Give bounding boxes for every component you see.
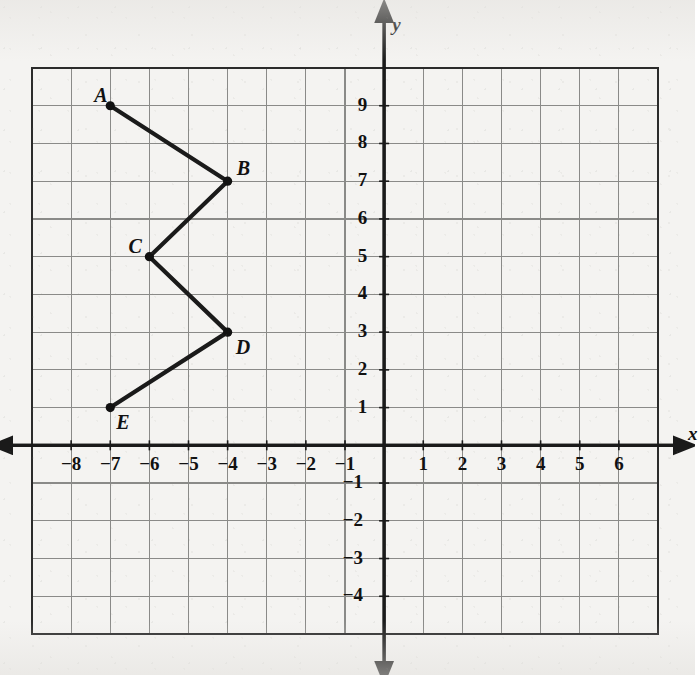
x-tick-label-1: 1 bbox=[403, 453, 443, 475]
y-tick-label-3: 3 bbox=[341, 320, 367, 342]
x-tick-label--8: −8 bbox=[51, 453, 91, 475]
y-tick-label-4: 4 bbox=[341, 282, 367, 304]
y-tick-label--2: −2 bbox=[337, 509, 363, 531]
vertex-label-D: D bbox=[236, 336, 250, 359]
y-tick-label-1: 1 bbox=[341, 396, 367, 418]
y-tick-label--1: −1 bbox=[337, 471, 363, 493]
x-tick-label-5: 5 bbox=[560, 453, 600, 475]
x-tick-label-2: 2 bbox=[442, 453, 482, 475]
y-tick-label-6: 6 bbox=[341, 207, 367, 229]
x-tick-label--6: −6 bbox=[129, 453, 169, 475]
x-tick-label--3: −3 bbox=[247, 453, 287, 475]
x-tick-label-6: 6 bbox=[599, 453, 639, 475]
x-axis-name: x bbox=[688, 423, 698, 445]
vertex-label-C: C bbox=[128, 235, 141, 258]
vertex-label-E: E bbox=[116, 411, 129, 434]
x-tick-label-3: 3 bbox=[482, 453, 522, 475]
y-tick-label-5: 5 bbox=[341, 245, 367, 267]
x-tick-label--4: −4 bbox=[208, 453, 248, 475]
x-tick-label--2: −2 bbox=[286, 453, 326, 475]
y-tick-label-7: 7 bbox=[341, 169, 367, 191]
y-tick-label-2: 2 bbox=[341, 358, 367, 380]
x-tick-label-4: 4 bbox=[521, 453, 561, 475]
vertex-label-B: B bbox=[237, 157, 250, 180]
y-tick-label-8: 8 bbox=[341, 131, 367, 153]
y-tick-label--4: −4 bbox=[337, 584, 363, 606]
y-tick-label--3: −3 bbox=[337, 547, 363, 569]
vertex-label-A: A bbox=[94, 84, 107, 107]
x-tick-label--7: −7 bbox=[90, 453, 130, 475]
y-axis-name: y bbox=[392, 14, 400, 36]
x-tick-label--5: −5 bbox=[169, 453, 209, 475]
y-tick-label-9: 9 bbox=[341, 94, 367, 116]
